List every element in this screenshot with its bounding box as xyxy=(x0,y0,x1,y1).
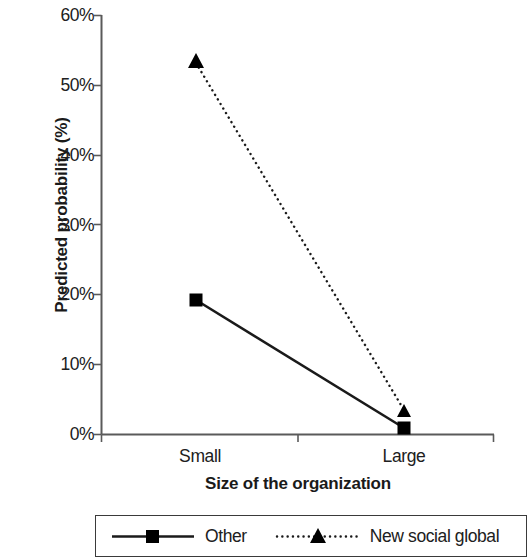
plot-area xyxy=(0,0,520,510)
series-other xyxy=(190,294,411,435)
y-axis-ticks xyxy=(94,16,102,435)
triangle-marker xyxy=(397,404,411,417)
x-axis-title: Size of the organization xyxy=(101,474,495,494)
square-marker xyxy=(398,422,411,435)
triangle-marker-icon xyxy=(310,528,326,543)
series-line-other xyxy=(196,300,404,428)
square-marker xyxy=(190,294,203,307)
legend-key-new-social-global xyxy=(275,526,361,546)
x-tick-label-large: Large xyxy=(344,446,464,467)
legend-entry-other: Other xyxy=(110,526,247,547)
legend-label-other: Other xyxy=(205,526,247,547)
square-marker-icon xyxy=(146,530,159,543)
x-axis-ticks xyxy=(102,435,494,443)
legend-label-new-social-global: New social global xyxy=(370,526,499,547)
chart-legend: Other New social global xyxy=(95,515,527,557)
legend-entry-new-social-global: New social global xyxy=(275,526,499,547)
x-tick-label-small: Small xyxy=(140,446,260,467)
triangle-marker xyxy=(188,53,204,68)
series-line-new-social-global xyxy=(196,63,404,410)
legend-key-other xyxy=(110,526,196,546)
